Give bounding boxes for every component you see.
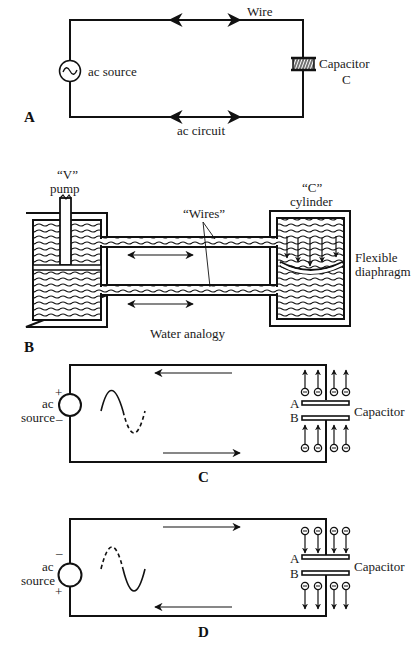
pump-rod: [60, 198, 71, 265]
panel-label-d: D: [198, 624, 209, 640]
capacitor-icon: [291, 58, 316, 70]
capacitor-plate-a: [302, 555, 349, 559]
cylinder-label-quote: “C”: [302, 180, 322, 195]
sine-wave-dashed: [101, 547, 123, 569]
panel-label-b: B: [24, 339, 34, 355]
circuit-wire: [70, 519, 326, 616]
panel-b-water-analogy: “V” pump “C” cylinder “Wires” Flexible d…: [24, 167, 411, 355]
source-label-source: source: [21, 573, 55, 588]
pump-piston: [33, 265, 101, 270]
plate-b-label: B: [290, 566, 299, 581]
diaphragm-label-line2: diaphragm: [355, 264, 411, 279]
pipe-top: [101, 237, 277, 247]
polarity-plus: +: [55, 385, 62, 400]
capacitor-label: Capacitor: [354, 559, 405, 574]
sine-wave-solid: [101, 391, 123, 412]
capacitor-ac-diagram: Wire ac source Capacitor C A ac circuit: [0, 0, 420, 650]
plate-b-label: B: [290, 410, 299, 425]
plate-a-label: A: [290, 396, 300, 411]
sine-wave-dashed: [123, 411, 145, 433]
ac-source-icon: [60, 61, 81, 82]
polarity-minus: –: [55, 411, 63, 426]
plate-a-label: A: [290, 551, 300, 566]
capacitor-plate-b: [302, 571, 349, 575]
panel-d-circuit-reversed: – + ac source A B Capacitor D: [21, 519, 405, 640]
diaphragm-label-line1: Flexible: [355, 250, 398, 265]
water-analogy-caption: Water analogy: [150, 326, 226, 341]
sine-wave-solid: [123, 569, 145, 591]
capacitor-label: Capacitor: [354, 404, 405, 419]
source-label-ac: ac: [42, 559, 54, 574]
polarity-minus: –: [55, 545, 63, 560]
ac-circuit-caption: ac circuit: [177, 123, 225, 138]
capacitor-plate-a: [302, 401, 349, 405]
wire-label: Wire: [247, 4, 273, 19]
capacitor-label: Capacitor: [319, 56, 370, 71]
pipe-bottom: [101, 285, 277, 295]
source-label-ac: ac: [42, 396, 54, 411]
panel-c-circuit-charging: + – ac source A B Capacitor C: [21, 365, 405, 485]
capacitor-symbol-label: C: [342, 72, 351, 87]
wires-label: “Wires”: [183, 206, 225, 221]
panel-label-c: C: [198, 469, 209, 485]
panel-a-ac-circuit: Wire ac source Capacitor C A ac circuit: [24, 4, 370, 138]
pump-label: pump: [50, 181, 80, 196]
polarity-plus: +: [55, 584, 62, 599]
capacitor-plate-b: [302, 416, 349, 420]
circuit-wire: [70, 365, 326, 462]
pump-label-quote: “V”: [57, 167, 78, 182]
ac-source-label: ac source: [88, 64, 137, 79]
cylinder-label: cylinder: [290, 194, 333, 209]
source-label-source: source: [21, 410, 55, 425]
panel-label-a: A: [24, 109, 35, 125]
